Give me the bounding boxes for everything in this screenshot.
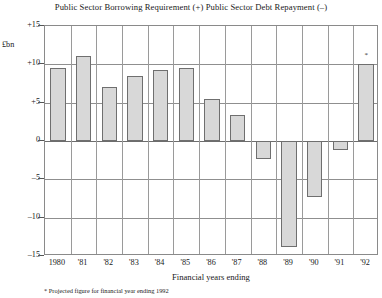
bar-column-88	[251, 26, 277, 254]
x-tick-label-90: '90	[301, 259, 327, 267]
x-tick-label-81: '81	[70, 259, 96, 267]
bar-column-85	[173, 26, 199, 254]
x-tick-label-86: '86	[198, 259, 224, 267]
chart-footnote: * Projected figure for financial year en…	[44, 287, 169, 294]
bar-84	[153, 70, 168, 141]
bar-89	[281, 141, 296, 247]
bar-88	[256, 141, 271, 159]
bar-81	[76, 56, 91, 141]
bar-85	[179, 68, 194, 141]
y-tick-label-+10: +10	[0, 59, 40, 67]
x-tick-label-85: '85	[172, 259, 198, 267]
chart-title: Public Sector Borrowing Requirement (+) …	[0, 2, 382, 12]
bar-column-83	[122, 26, 148, 254]
bar-series: *	[45, 26, 377, 254]
bar-90	[307, 141, 322, 197]
bar-82	[102, 87, 117, 141]
bar-column-82	[96, 26, 122, 254]
x-tick-label-92: '92	[352, 259, 378, 267]
bar-column-1980	[45, 26, 71, 254]
bar-86	[204, 99, 219, 141]
bar-column-87	[225, 26, 251, 254]
bar-column-92: *	[353, 26, 379, 254]
y-tick-label-–10: –10	[0, 213, 40, 221]
bar-87	[230, 115, 245, 141]
bar-column-90	[302, 26, 328, 254]
y-tick-label-0: 0	[0, 136, 40, 144]
x-tick-label-89: '89	[275, 259, 301, 267]
x-tick-label-88: '88	[250, 259, 276, 267]
x-tick-label-87: '87	[224, 259, 250, 267]
bar-column-91	[328, 26, 354, 254]
projected-figure-asterisk-icon: *	[364, 52, 368, 59]
y-tick-label-–15: –15	[0, 251, 40, 259]
bar-91	[333, 141, 348, 150]
x-tick-label-83: '83	[121, 259, 147, 267]
bar-1980	[50, 68, 65, 141]
bar-83	[127, 76, 142, 141]
bar-column-89	[276, 26, 302, 254]
bar-column-84	[148, 26, 174, 254]
plot-area: *	[44, 25, 378, 255]
bar-column-81	[71, 26, 97, 254]
y-tick-label-–5: –5	[0, 174, 40, 182]
x-tick-label-84: '84	[147, 259, 173, 267]
x-tick-label-82: '82	[95, 259, 121, 267]
bar-column-86	[199, 26, 225, 254]
bar-92	[358, 64, 373, 141]
x-tick-label-91: '91	[327, 259, 353, 267]
y-tick-mark-–15	[38, 255, 44, 256]
y-axis-unit-label: £bn	[2, 40, 14, 49]
psbr-bar-chart: Public Sector Borrowing Requirement (+) …	[0, 0, 382, 298]
x-axis-title: Financial years ending	[44, 272, 378, 282]
y-tick-label-+5: +5	[0, 98, 40, 106]
y-tick-label-+15: +15	[0, 21, 40, 29]
x-tick-label-1980: 1980	[44, 259, 70, 267]
